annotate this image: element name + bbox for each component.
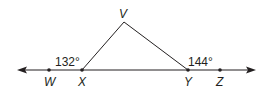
- label-w: W: [44, 75, 57, 89]
- label-x: X: [77, 75, 87, 89]
- point-w: [47, 68, 51, 72]
- segment-xv: [82, 22, 124, 70]
- point-z: [218, 68, 222, 72]
- label-z: Z: [215, 75, 224, 89]
- triangle-diagram: V W X Y Z 132° 144°: [0, 0, 268, 93]
- label-v: V: [119, 7, 128, 21]
- angle-wxv-label: 132°: [55, 55, 80, 69]
- segment-vy: [124, 22, 188, 70]
- point-x: [80, 68, 84, 72]
- angle-vyz-label: 144°: [188, 55, 213, 69]
- label-y: Y: [184, 75, 193, 89]
